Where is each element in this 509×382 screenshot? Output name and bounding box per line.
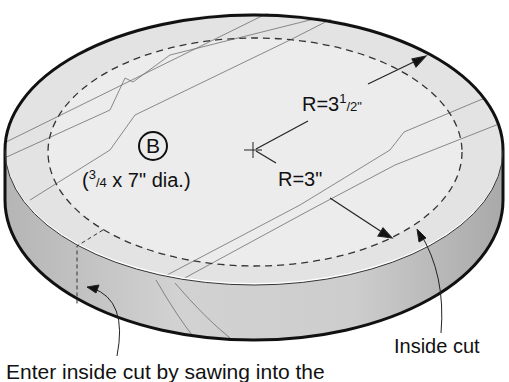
part-dimensions-label: (3/4 x 7" dia.) bbox=[82, 168, 191, 190]
inner-area bbox=[48, 38, 462, 266]
outer-radius-label: R=31/2" bbox=[302, 92, 362, 114]
inside-cut-label: Inside cut bbox=[394, 336, 480, 356]
dims-rest: x 7" dia.) bbox=[107, 169, 191, 191]
dims-open: ( bbox=[82, 169, 89, 191]
instruction-text: Enter inside cut by sawing into the bbox=[6, 361, 325, 382]
outer-radius-prefix: R=3 bbox=[302, 93, 339, 115]
part-letter: B bbox=[146, 134, 160, 158]
dims-frac-den: /4 bbox=[96, 175, 107, 190]
outer-radius-frac-den: /2" bbox=[346, 99, 361, 114]
disc-diagram bbox=[0, 0, 509, 382]
part-letter-badge: B bbox=[138, 131, 168, 161]
inner-radius-label: R=3" bbox=[278, 169, 322, 189]
dims-frac-num: 3 bbox=[89, 167, 96, 182]
